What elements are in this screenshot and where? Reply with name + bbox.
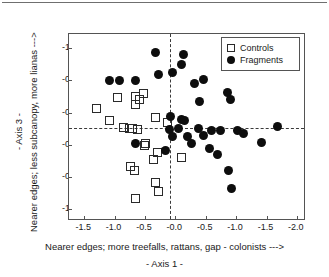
data-point-fragment [105,76,114,85]
legend-label-controls: Controls [240,43,274,53]
data-point-fragment [227,184,236,193]
data-point-fragment [151,48,160,57]
data-point-control [149,155,158,164]
horizontal-reference-line [69,128,304,129]
data-point-fragment [216,126,225,135]
data-point-fragment [168,132,177,141]
data-point-fragment [257,138,266,147]
data-point-control [113,93,122,102]
data-point-fragment [213,150,222,159]
data-point-control [154,187,163,196]
data-point-fragment [199,131,208,140]
open-square-icon [227,44,235,52]
data-point-fragment [154,70,163,79]
y-tick [68,145,72,146]
data-point-control [105,116,114,125]
legend: Controls Fragments [221,37,300,71]
data-point-control [92,104,101,113]
x-tick-label: -1.5 [75,222,91,232]
x-tick [84,216,85,220]
legend-entry-controls: Controls [227,42,294,54]
y-tick [68,48,72,49]
x-tick-label: -1.0 [227,222,243,232]
data-point-fragment [115,76,124,85]
data-point-control [135,95,144,104]
data-point-fragment [207,126,216,135]
data-point-control [133,125,142,134]
y-tick [68,209,72,210]
data-point-fragment [131,139,140,148]
data-point-fragment [273,122,282,131]
y-tick [68,80,72,81]
data-point-control [151,113,160,122]
data-point-control [131,194,140,203]
x-tick [267,216,268,220]
x-axis-title-main: Nearer edges; more treefalls, rattans, g… [0,241,329,252]
data-point-fragment [180,116,189,125]
data-point-fragment [131,76,140,85]
figure-container: - Axis 3 - Nearer edges; less subcanopy,… [0,0,329,277]
legend-label-fragments: Fragments [240,55,283,65]
data-point-fragment [226,95,235,104]
data-point-control [151,178,160,187]
data-point-fragment [195,97,204,106]
x-tick-label: -1.0 [106,222,122,232]
x-tick [297,216,298,220]
x-tick-label: -0.5 [197,222,213,232]
x-tick [206,216,207,220]
y-tick [68,113,72,114]
x-tick-label: -0.5 [136,222,152,232]
data-point-fragment [177,60,186,69]
x-tick [175,216,176,220]
data-point-fragment [224,166,233,175]
data-point-control [140,141,149,150]
legend-entry-fragments: Fragments [227,54,294,66]
data-point-control [177,153,186,162]
data-point-fragment [239,129,248,138]
plot-area: Controls Fragments [68,33,305,220]
data-point-fragment [161,146,170,155]
x-axis-title-sub: - Axis 1 - [0,258,329,269]
page-top-rule [2,2,327,3]
data-point-fragment [166,112,175,121]
y-axis-title-main: Nearer edges; less subcanopy, more liana… [28,32,39,232]
data-point-fragment [199,75,208,84]
x-tick-label: -2.0 [288,222,304,232]
x-tick [115,216,116,220]
x-tick-label: -1.5 [258,222,274,232]
data-point-fragment [179,50,188,59]
x-tick [236,216,237,220]
data-point-fragment [187,139,196,148]
data-point-fragment [168,68,177,77]
data-point-fragment [190,79,199,88]
data-point-control [130,166,139,175]
y-tick [68,177,72,178]
y-axis-title-sub: - Axis 3 - [13,113,24,150]
x-tick-label: -0.0 [167,222,183,232]
filled-circle-icon [227,56,235,64]
x-tick [145,216,146,220]
